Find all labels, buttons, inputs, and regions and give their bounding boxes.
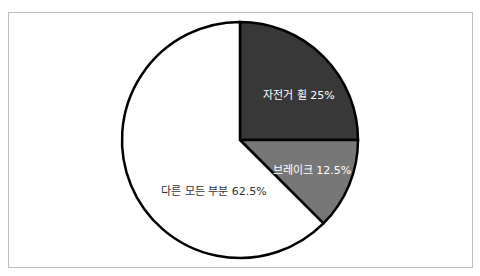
slice-label-bicycle-wheel: 자전거 휠 25%	[263, 89, 334, 102]
pie-chart: 자전거 휠 25% 브레이크 12.5% 다른 모든 부분 62.5%	[0, 0, 480, 276]
pie-slice-bicycle-wheel	[240, 22, 358, 140]
slice-label-brake: 브레이크 12.5%	[273, 164, 351, 177]
slice-label-other-parts: 다른 모든 부분 62.5%	[161, 185, 266, 198]
